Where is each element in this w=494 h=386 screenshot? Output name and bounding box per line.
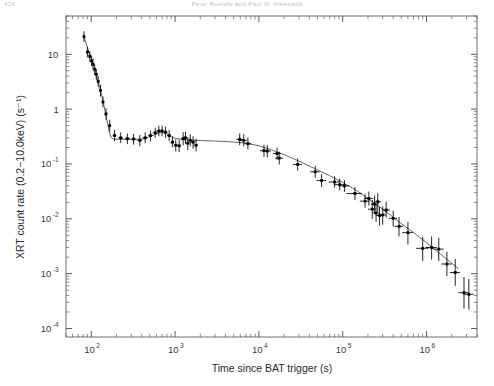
svg-text:-1: -1 — [53, 156, 59, 163]
y-axis-label: XRT count rate (0.2−10.0keV) (s⁻¹) — [14, 95, 26, 259]
svg-text:10: 10 — [41, 158, 52, 169]
xrt-lightcurve-chart: 102103104105106 10110-110-210-310-4 Time… — [0, 0, 494, 386]
svg-text:10: 10 — [41, 213, 52, 224]
svg-text:-2: -2 — [53, 211, 59, 218]
y-axis-ticks — [66, 16, 477, 329]
svg-text:10: 10 — [41, 268, 52, 279]
x-tick-labels: 102103104105106 — [84, 342, 435, 355]
plot-frame — [66, 16, 477, 337]
data-points — [83, 31, 474, 310]
svg-text:10: 10 — [336, 344, 347, 355]
figure-page: 424 Peter Roelofs and Paul M. Vreeswijk … — [0, 0, 494, 386]
svg-text:2: 2 — [96, 342, 100, 349]
x-axis-label: Time since BAT trigger (s) — [212, 362, 333, 374]
svg-text:10: 10 — [41, 323, 52, 334]
svg-text:10: 10 — [84, 344, 95, 355]
svg-text:10: 10 — [48, 49, 59, 60]
x-axis-ticks — [66, 16, 477, 337]
svg-text:-3: -3 — [53, 266, 59, 273]
svg-text:1: 1 — [53, 104, 58, 115]
chart-svg: 102103104105106 10110-110-210-310-4 Time… — [0, 0, 494, 386]
svg-text:4: 4 — [264, 342, 268, 349]
y-tick-labels: 10110-110-210-310-4 — [41, 49, 59, 334]
svg-text:6: 6 — [432, 342, 436, 349]
svg-text:10: 10 — [252, 344, 263, 355]
svg-text:5: 5 — [348, 342, 352, 349]
svg-text:10: 10 — [168, 344, 179, 355]
svg-text:-4: -4 — [53, 321, 59, 328]
svg-text:10: 10 — [420, 344, 431, 355]
svg-text:3: 3 — [180, 342, 184, 349]
